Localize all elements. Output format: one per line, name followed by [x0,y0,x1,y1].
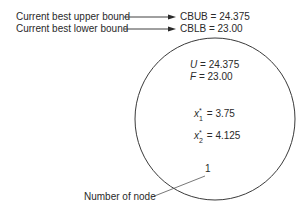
x2-solution: x*2 = 4.125 [194,130,240,142]
lower-bound-label: Current best lower bound [16,23,128,35]
x1-subscript: 1 [199,113,203,125]
node-upper-bound: U = 24.375 [190,59,239,71]
upper-bound-label: Current best upper bound [16,11,130,23]
upper-bound-arrow [124,15,176,20]
node-objective: F = 23.00 [190,71,233,83]
cbub-value: CBUB = 24.375 [180,11,250,23]
x2-value: = 4.125 [204,130,240,141]
f-value: = 23.00 [196,71,232,82]
x2-subscript: 2 [199,135,203,147]
x1-value: = 3.75 [204,108,235,119]
x1-solution: x*1 = 3.75 [194,108,235,120]
u-value: = 24.375 [197,59,239,70]
node-number-label: Number of node [84,191,156,203]
cblb-value: CBLB = 23.00 [180,23,243,35]
node-number-leader-line [152,176,205,197]
lower-bound-arrow [124,27,176,32]
node-number: 1 [205,163,211,175]
